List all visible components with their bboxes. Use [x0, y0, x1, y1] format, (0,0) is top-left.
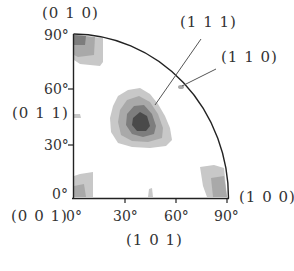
- pole-label-001: (0 0 1): [11, 209, 68, 224]
- x-tick-90: 90°: [214, 209, 239, 223]
- pole-label-111: (1 1 1): [180, 15, 237, 30]
- x-tick-0: 0°: [66, 209, 82, 223]
- y-tick-90: 90°: [44, 28, 69, 42]
- x-tick-60: 60°: [164, 209, 189, 223]
- x-tick-30: 30°: [113, 209, 138, 223]
- density-right-100: [200, 165, 227, 197]
- density-top-010: [74, 35, 103, 66]
- density-origin-001: [74, 172, 93, 197]
- pole-label-110: (1 1 0): [221, 50, 278, 65]
- pole-label-100: (1 0 0): [239, 190, 294, 205]
- y-tick-60: 60°: [44, 82, 69, 96]
- leader-110: [182, 69, 216, 86]
- pole-label-010: (0 1 0): [42, 6, 99, 21]
- y-tick-0: 0°: [52, 187, 68, 201]
- y-tick-30: 30°: [44, 138, 69, 152]
- pole-label-011: (0 1 1): [12, 106, 69, 121]
- density-central-111: [110, 88, 172, 148]
- pole-label-101: (1 0 1): [126, 233, 183, 248]
